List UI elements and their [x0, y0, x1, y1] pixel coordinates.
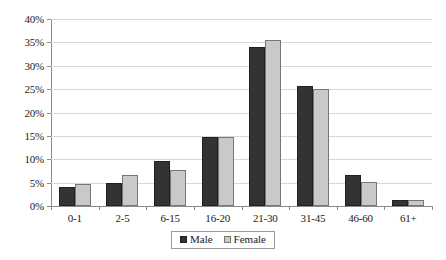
- bar-group: [99, 19, 147, 206]
- bar-male-46-60: [345, 175, 361, 206]
- bar-chart: 0%5%10%15%20%25%30%35%40% MaleFemale 0-1…: [0, 0, 446, 260]
- y-axis-tick-label: 30%: [24, 60, 44, 72]
- y-axis-tick-label: 35%: [24, 36, 44, 48]
- x-tick-mark: [289, 206, 290, 210]
- legend-label: Female: [234, 234, 266, 245]
- x-axis-tick-label: 0-1: [68, 212, 82, 224]
- y-axis-tick-label: 40%: [24, 13, 44, 25]
- y-axis-tick-label: 15%: [24, 130, 44, 142]
- x-axis-tick-label: 61+: [400, 212, 417, 224]
- bar-group: [146, 19, 194, 206]
- x-axis-tick-label: 46-60: [348, 212, 373, 224]
- bar-group: [51, 19, 99, 206]
- y-axis-tick-label: 0%: [30, 200, 44, 212]
- legend-entry-female: Female: [224, 234, 266, 245]
- x-axis-tick-label: 6-15: [160, 212, 179, 224]
- legend-entry-male: Male: [180, 234, 213, 245]
- bar-group: [289, 19, 337, 206]
- bar-female-2-5: [122, 175, 138, 206]
- bar-male-6-15: [154, 161, 170, 206]
- x-tick-mark: [146, 206, 147, 210]
- y-axis-tick-label: 10%: [24, 153, 44, 165]
- bar-male-16-20: [202, 137, 218, 206]
- y-axis-tick-label: 25%: [24, 83, 44, 95]
- x-tick-mark: [194, 206, 195, 210]
- bar-male-61+: [392, 200, 408, 206]
- bar-female-16-20: [218, 137, 234, 206]
- y-axis-tick-label: 5%: [30, 177, 44, 189]
- legend-swatch-icon: [180, 236, 187, 243]
- bar-male-0-1: [59, 187, 75, 206]
- x-tick-mark: [432, 206, 433, 210]
- x-tick-mark: [99, 206, 100, 210]
- bar-female-21-30: [265, 40, 281, 206]
- chart-legend: MaleFemale: [171, 231, 275, 249]
- x-axis-tick-label: 16-20: [205, 212, 230, 224]
- bar-female-6-15: [170, 170, 186, 206]
- bar-female-61+: [408, 200, 424, 206]
- x-axis-tick-label: 21-30: [253, 212, 278, 224]
- bar-female-31-45: [313, 89, 329, 206]
- bar-male-21-30: [249, 47, 265, 206]
- bar-group: [242, 19, 290, 206]
- x-tick-mark: [51, 206, 52, 210]
- x-tick-mark: [384, 206, 385, 210]
- legend-swatch-icon: [224, 236, 231, 243]
- legend-label: Male: [190, 234, 213, 245]
- bar-male-31-45: [297, 86, 313, 206]
- x-axis-tick-label: 31-45: [301, 212, 326, 224]
- bar-group: [337, 19, 385, 206]
- bar-female-0-1: [75, 184, 91, 206]
- bar-female-46-60: [361, 182, 377, 206]
- bar-male-2-5: [106, 183, 122, 206]
- bar-group: [194, 19, 242, 206]
- x-axis-tick-label: 2-5: [115, 212, 129, 224]
- bar-group: [384, 19, 432, 206]
- plot-area: 0%5%10%15%20%25%30%35%40%: [51, 19, 432, 206]
- x-tick-mark: [337, 206, 338, 210]
- x-tick-mark: [242, 206, 243, 210]
- y-axis-tick-label: 20%: [24, 107, 44, 119]
